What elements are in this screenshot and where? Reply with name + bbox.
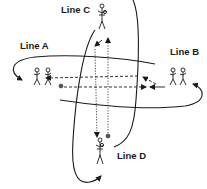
line-a-ball [59, 84, 63, 88]
player-a2 [45, 68, 51, 85]
player-a1 [34, 68, 40, 85]
line-b-label: Line B [170, 47, 199, 57]
drill-diagram-canvas [0, 0, 207, 189]
line-d-player [96, 138, 104, 164]
player-b1 [170, 68, 176, 85]
line-a-players [34, 68, 51, 85]
player-b2 [180, 68, 186, 85]
line-d-ball [106, 134, 110, 138]
line-c-label: Line C [61, 5, 90, 15]
vertical-pass-arrows [95, 38, 108, 137]
line-c-short-arrow [95, 40, 102, 46]
line-a-label: Line A [20, 41, 49, 51]
line-c-player [98, 4, 107, 29]
line-d-label: Line D [117, 151, 146, 161]
drill-diagram: Line A Line B Line C Line D [0, 0, 207, 189]
line-b-players [170, 68, 186, 85]
